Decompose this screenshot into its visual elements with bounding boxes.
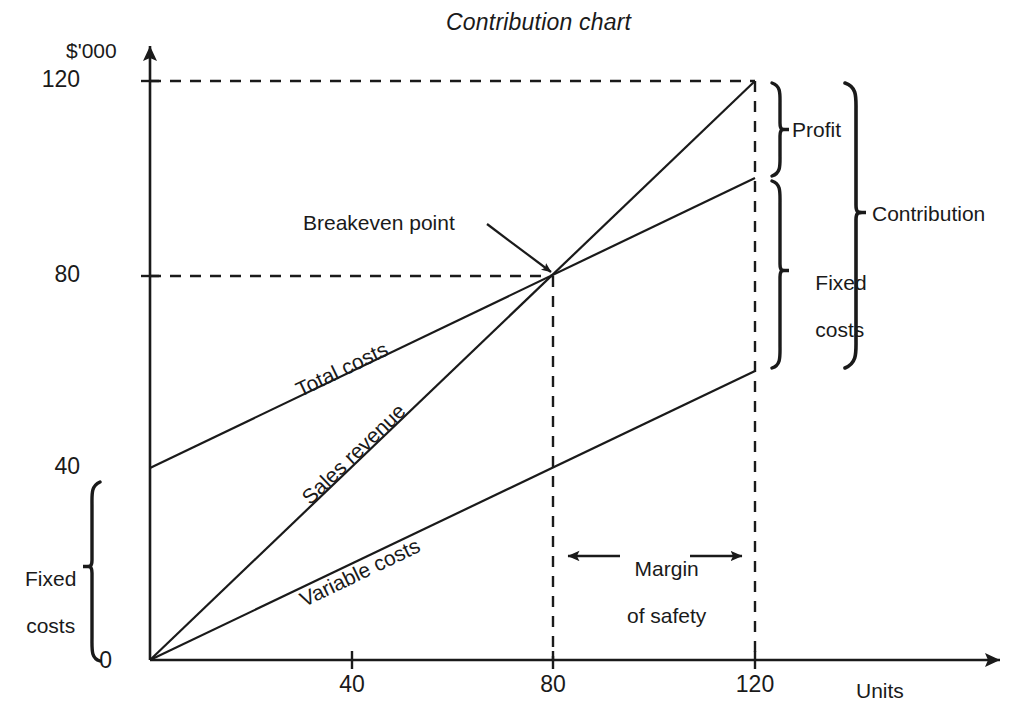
x-tick-label-80: 80 (513, 672, 593, 698)
fixed-costs-left-label-line2: costs (26, 614, 75, 637)
margin-of-safety-label-line2: of safety (627, 604, 706, 627)
fixed-costs-left-label: Fixed costs (0, 543, 78, 661)
contribution-label: Contribution (872, 202, 985, 226)
axis-lines (150, 46, 1000, 660)
breakeven-point-label: Breakeven point (303, 211, 455, 235)
chart-canvas (0, 0, 1024, 716)
profit-label: Profit (792, 118, 841, 142)
fixed-costs-right-label: Fixed costs (792, 247, 867, 365)
breakeven-callout-arrow (487, 224, 551, 272)
y-tick-label-40: 40 (10, 454, 80, 480)
profit-brace (772, 83, 789, 176)
margin-of-safety-label-line1: Margin (635, 557, 699, 580)
fixed-costs-right-brace (772, 181, 789, 368)
x-axis-name-label: Units (856, 679, 904, 703)
fixed-costs-left-label-line1: Fixed (25, 567, 76, 590)
y-tick-label-80: 80 (10, 262, 80, 288)
chart-title: Contribution chart (446, 10, 631, 36)
margin-of-safety-label: Margin of safety (598, 533, 712, 651)
x-tick-label-120: 120 (715, 672, 795, 698)
y-tick-label-120: 120 (10, 67, 80, 93)
fixed-costs-right-label-line1: Fixed (815, 271, 866, 294)
fixed-costs-left-brace (83, 482, 100, 661)
contribution-chart-figure: Contribution chart $'000 120 80 40 0 40 … (0, 0, 1024, 716)
x-tick-label-40: 40 (312, 672, 392, 698)
fixed-costs-right-label-line2: costs (815, 318, 864, 341)
y-axis-unit-label: $'000 (66, 39, 117, 63)
